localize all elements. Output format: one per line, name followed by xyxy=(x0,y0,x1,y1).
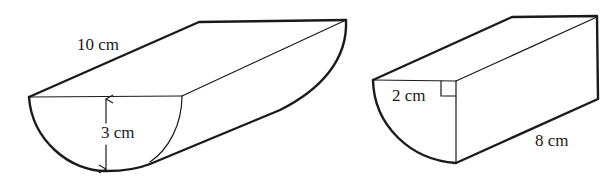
radius-label: 2 cm xyxy=(392,86,426,105)
right-angle-marker xyxy=(441,81,456,96)
length-label: 8 cm xyxy=(535,131,569,150)
half-cylinder-inner-edge xyxy=(182,20,346,96)
half-cylinder-top-edge xyxy=(29,20,346,97)
half-cylinder-back-arc xyxy=(150,20,346,164)
half-cylinder-diameter xyxy=(29,96,182,97)
half-cylinder-figure: 3 cm 10 cm xyxy=(29,20,346,171)
radius-label: 3 cm xyxy=(101,123,135,142)
quarter-cylinder-figure: 2 cm 8 cm xyxy=(373,16,598,163)
quarter-cylinder-top-radius xyxy=(373,80,456,81)
diagram-canvas: 3 cm 10 cm 2 cm 8 cm xyxy=(0,0,614,186)
length-label: 10 cm xyxy=(77,35,119,54)
quarter-cylinder-inner-edge xyxy=(456,17,597,81)
